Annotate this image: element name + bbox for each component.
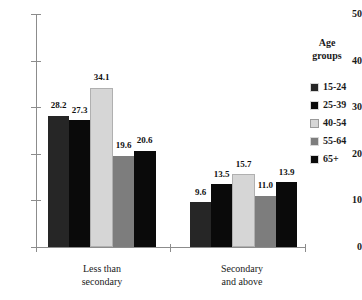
legend-label-55-64: 55-64 [323,136,346,146]
legend: Age groups 15-24 25-39 40-54 55-64 [296,36,362,168]
legend-item-40-54[interactable]: 40-54 [296,114,362,132]
x-category-label-0-line-2: secondary [52,275,152,288]
legend-label-40-54: 40-54 [323,118,346,128]
y-tick-10 [31,200,41,201]
y-tick-label-0: 0 [336,242,362,252]
legend-swatch-icon-25-39 [310,101,319,110]
x-category-label-1-line-2: and above [192,275,292,288]
legend-swatch-icon-40-54 [310,119,319,128]
x-tick-start [36,244,37,252]
legend-swatch-icon-55-64 [310,137,319,146]
bar-g1-s0 [190,202,211,247]
bar-g0-s4 [134,151,156,247]
bar-chart: 0 10 20 30 40 50 28.2 27.3 34.1 19.6 20.… [0,0,362,300]
x-category-label-0: Less than secondary [52,262,152,288]
legend-title-line-1: Age [300,36,354,49]
x-axis-line [36,247,306,248]
bar-label-g1-s2: 15.7 [229,160,258,169]
bar-label-g1-s4: 13.9 [272,168,301,177]
y-tick-30 [31,107,41,108]
bar-g0-s3 [113,156,134,247]
bar-g1-s3 [255,196,276,247]
y-tick-50 [31,14,41,15]
legend-label-15-24: 15-24 [323,82,346,92]
x-tick-end [305,244,306,252]
legend-items: 15-24 25-39 40-54 55-64 65+ [296,78,362,168]
bar-label-g0-s2: 34.1 [87,73,116,82]
legend-item-65-plus[interactable]: 65+ [296,150,362,168]
bar-g0-s1 [69,120,90,247]
bar-g1-s4 [276,182,297,247]
legend-item-25-39[interactable]: 25-39 [296,96,362,114]
bar-g0-s2 [90,88,113,247]
y-tick-label-50: 50 [336,9,362,19]
legend-label-65-plus: 65+ [323,154,339,164]
legend-title-line-2: groups [300,49,354,62]
x-category-label-0-line-1: Less than [52,262,152,275]
y-tick-40 [31,61,41,62]
y-tick-20 [31,154,41,155]
bar-label-g0-s4: 20.6 [130,136,159,145]
bar-g0-s0 [48,116,69,247]
legend-label-25-39: 25-39 [323,100,346,110]
legend-item-55-64[interactable]: 55-64 [296,132,362,150]
legend-swatch-icon-15-24 [310,83,319,92]
legend-title: Age groups [300,36,354,62]
x-category-label-1-line-1: Secondary [192,262,292,275]
y-tick-label-10: 10 [336,195,362,205]
bar-g1-s1 [211,184,232,247]
x-category-label-1: Secondary and above [192,262,292,288]
legend-swatch-icon-65-plus [310,155,319,164]
legend-item-15-24[interactable]: 15-24 [296,78,362,96]
y-axis-line [36,14,37,248]
x-tick-middle [170,244,171,252]
